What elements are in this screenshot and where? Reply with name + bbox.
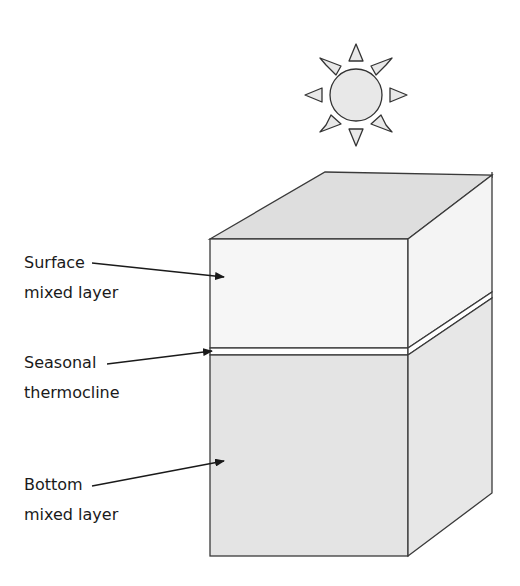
thermocline-label-line2: thermocline: [24, 378, 120, 408]
thermocline-label-line1: Seasonal: [24, 348, 96, 378]
thermocline-front: [210, 348, 408, 355]
surface-layer-front: [210, 239, 408, 348]
surface-arrow: [92, 263, 224, 277]
bottom-label-line2: mixed layer: [24, 500, 118, 530]
bottom-label-line1: Bottom: [24, 470, 83, 500]
diagram-canvas: Surface mixed layer Seasonal thermocline…: [0, 0, 520, 586]
bottom-layer-front: [210, 355, 408, 556]
surface-label-line1: Surface: [24, 248, 85, 278]
sun-icon: [305, 44, 407, 146]
surface-label-line2: mixed layer: [24, 278, 118, 308]
bottom-arrow: [92, 461, 224, 486]
thermocline-arrow: [107, 351, 212, 364]
